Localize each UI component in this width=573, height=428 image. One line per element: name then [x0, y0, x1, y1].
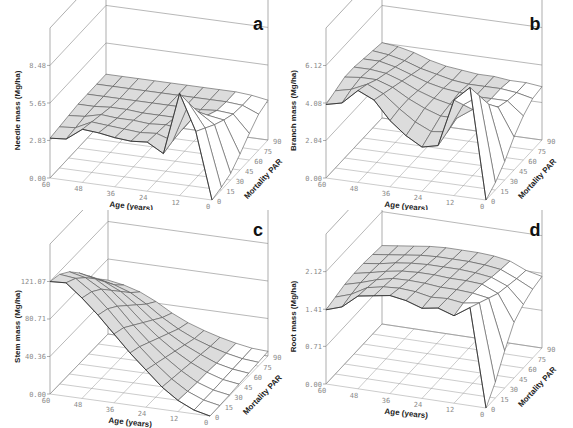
svg-text:2.83: 2.83 — [29, 137, 46, 145]
svg-text:48: 48 — [350, 185, 358, 193]
svg-text:60: 60 — [318, 387, 326, 395]
svg-text:0: 0 — [491, 406, 495, 414]
svg-text:60: 60 — [42, 397, 50, 405]
surface-mesh — [326, 246, 542, 408]
svg-text:0.71: 0.71 — [305, 343, 322, 351]
svg-text:75: 75 — [263, 364, 271, 372]
svg-text:45: 45 — [519, 168, 527, 176]
svg-text:45: 45 — [245, 168, 253, 176]
svg-text:40.36: 40.36 — [25, 353, 46, 361]
svg-text:24: 24 — [414, 194, 422, 202]
z-axis-label: Stem mass (Mg/ha) — [13, 290, 22, 363]
svg-text:12: 12 — [446, 406, 454, 414]
svg-text:80.71: 80.71 — [25, 315, 46, 323]
svg-text:60: 60 — [254, 158, 262, 166]
svg-text:90: 90 — [547, 138, 555, 146]
svg-text:12: 12 — [446, 199, 454, 207]
svg-text:60: 60 — [318, 181, 326, 189]
svg-text:24: 24 — [139, 194, 147, 202]
svg-text:36: 36 — [382, 190, 390, 198]
surface-plot-svg: 0.0040.3680.71121.0760483624120015304560… — [0, 210, 290, 428]
svg-text:0: 0 — [480, 203, 484, 210]
svg-text:24: 24 — [138, 410, 146, 418]
svg-text:90: 90 — [547, 346, 555, 354]
svg-text:0: 0 — [217, 198, 221, 206]
panel-letter: c — [253, 220, 263, 240]
svg-text:2.12: 2.12 — [305, 268, 322, 276]
panel-letter: d — [530, 220, 541, 240]
svg-text:36: 36 — [382, 397, 390, 405]
svg-text:30: 30 — [234, 394, 242, 402]
svg-text:8.48: 8.48 — [29, 62, 46, 70]
z-axis-label: Branch mass (Mg/ha) — [290, 70, 298, 151]
svg-text:45: 45 — [519, 376, 527, 384]
surface-plot-svg: 0.000.711.412.12604836241200153045607590… — [290, 210, 573, 428]
svg-text:12: 12 — [170, 415, 178, 423]
z-axis-ticks: 0.0040.3680.71121.07 — [21, 278, 50, 399]
svg-text:0: 0 — [491, 198, 495, 206]
svg-text:121.07: 121.07 — [21, 278, 46, 286]
z-axis-ticks: 0.000.711.412.12 — [305, 268, 326, 388]
panel-letter: a — [253, 14, 264, 34]
svg-text:48: 48 — [74, 185, 82, 193]
svg-text:30: 30 — [510, 178, 518, 186]
svg-text:4.08: 4.08 — [305, 100, 322, 108]
svg-text:6.12: 6.12 — [305, 62, 322, 70]
svg-text:15: 15 — [226, 188, 234, 196]
y-axis-label: Mortality PAR — [516, 365, 558, 409]
y-axis-label: Mortality PAR — [516, 157, 558, 201]
svg-text:0: 0 — [215, 414, 219, 422]
svg-text:75: 75 — [264, 148, 272, 156]
svg-text:75: 75 — [538, 356, 546, 364]
svg-text:90: 90 — [273, 354, 281, 362]
figure-4-panel-surface-plots: 0.002.835.658.48604836241200153045607590… — [0, 0, 573, 428]
svg-text:1.41: 1.41 — [305, 306, 322, 314]
svg-text:60: 60 — [528, 366, 536, 374]
z-axis-ticks: 0.002.835.658.48 — [29, 62, 50, 183]
svg-text:15: 15 — [500, 188, 508, 196]
svg-text:0: 0 — [204, 419, 208, 427]
surface-plot-svg: 0.002.835.658.48604836241200153045607590… — [0, 0, 290, 210]
svg-text:30: 30 — [510, 386, 518, 394]
svg-text:60: 60 — [528, 158, 536, 166]
z-axis-label: Needle mass (Mg/ha) — [13, 70, 22, 150]
svg-text:48: 48 — [350, 392, 358, 400]
z-axis-ticks: 0.002.044.086.12 — [305, 62, 326, 183]
svg-text:75: 75 — [538, 148, 546, 156]
panel-a-needle-mass: 0.002.835.658.48604836241200153045607590… — [0, 0, 290, 210]
surface-mesh — [326, 43, 542, 200]
y-axis-label: Mortality PAR — [241, 373, 284, 417]
svg-text:90: 90 — [273, 138, 281, 146]
svg-text:12: 12 — [171, 199, 179, 207]
surface-plot-svg: 0.002.044.086.12604836241200153045607590… — [290, 0, 573, 210]
z-axis-label: Root mass (Mg/ha) — [290, 280, 298, 352]
svg-text:60: 60 — [254, 374, 262, 382]
svg-text:30: 30 — [236, 178, 244, 186]
panel-letter: b — [530, 14, 541, 34]
svg-text:0: 0 — [206, 203, 210, 210]
svg-text:45: 45 — [244, 384, 252, 392]
svg-text:15: 15 — [500, 396, 508, 404]
svg-text:15: 15 — [225, 404, 233, 412]
panel-b-branch-mass: 0.002.044.086.12604836241200153045607590… — [290, 0, 573, 210]
svg-text:36: 36 — [106, 406, 114, 414]
svg-text:48: 48 — [74, 401, 82, 409]
panel-c-stem-mass: 0.0040.3680.71121.0760483624120015304560… — [0, 210, 290, 428]
svg-text:36: 36 — [107, 190, 115, 198]
svg-text:60: 60 — [42, 181, 50, 189]
svg-text:5.65: 5.65 — [29, 100, 46, 108]
svg-text:24: 24 — [414, 401, 422, 409]
panel-d-root-mass: 0.000.711.412.12604836241200153045607590… — [290, 210, 573, 428]
svg-text:0: 0 — [480, 411, 484, 419]
y-axis-label: Mortality PAR — [242, 157, 284, 201]
svg-text:2.04: 2.04 — [305, 137, 322, 145]
